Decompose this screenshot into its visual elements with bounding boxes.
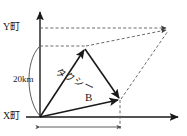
b-vector: [40, 100, 118, 117]
b-tip-to-resultant-dashed-line: [121, 31, 168, 99]
vector-diagram: Y町 X町 20km タクシー B: [0, 0, 187, 136]
taxi-tip-to-resultant-dashed-line: [86, 30, 166, 46]
label-y-town: Y町: [3, 22, 20, 32]
label-distance-20km: 20km: [13, 75, 34, 84]
dimensions-group: [29, 47, 121, 127]
diagram-canvas: [0, 0, 187, 136]
label-vector-b: B: [85, 92, 92, 103]
construction-lines-group: [40, 28, 168, 130]
label-x-town: X町: [3, 111, 20, 121]
